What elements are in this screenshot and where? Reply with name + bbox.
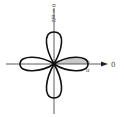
axis-arrow-icon [101, 62, 108, 67]
right-axis-label: 0 [111, 61, 115, 69]
rose-curve-diagram: θ = π/2 0 a [0, 0, 124, 117]
top-axis-label: θ = π/2 [51, 4, 57, 23]
petal-tip-label: a [86, 66, 90, 73]
